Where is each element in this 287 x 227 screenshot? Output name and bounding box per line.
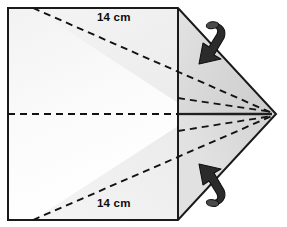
- figure-canvas: [0, 0, 287, 227]
- dimension-label-bottom: 14 cm: [97, 198, 131, 210]
- dimension-label-top: 14 cm: [97, 12, 131, 24]
- geometry-figure: 14 cm 14 cm: [0, 0, 287, 227]
